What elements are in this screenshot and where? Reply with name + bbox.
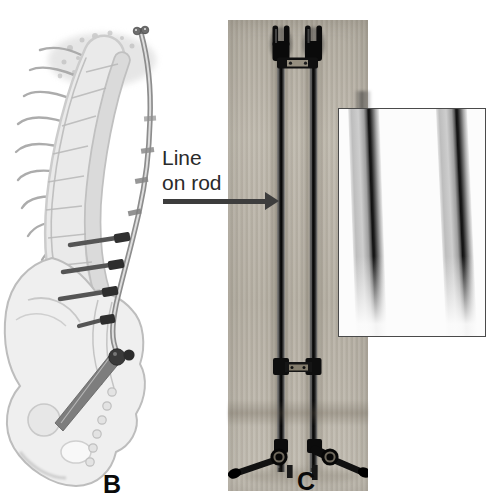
annotation-line-on-rod: Line on rod [162,145,222,195]
panel-c-label: C [297,467,315,496]
photo-crease [228,400,368,426]
top-crosslink [277,58,318,69]
inset-fade [339,256,485,336]
spine-illustration [0,0,240,500]
top-screw-heads [270,26,325,62]
bottom-crosslink [273,358,322,375]
pelvis [5,258,145,486]
arrow-head [265,192,279,210]
annotation-line-2: on rod [162,170,222,195]
magnified-inset [338,108,486,337]
figure-container: Line on rod B C [0,0,490,501]
panel-b-label: B [103,470,121,499]
annotation-line-1: Line [162,145,222,170]
rod-top-connector [133,26,149,35]
arrow-line [163,199,266,204]
